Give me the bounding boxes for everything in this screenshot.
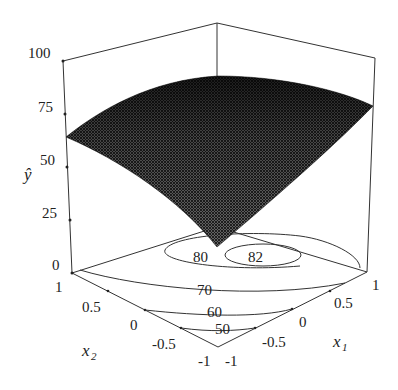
svg-text:x: x bbox=[332, 332, 341, 351]
contour-70 bbox=[80, 270, 345, 291]
top-back-left-edge bbox=[63, 23, 217, 61]
svg-text:1: 1 bbox=[342, 341, 348, 353]
x2-tick-0.5: 0.5 bbox=[82, 299, 101, 315]
x1-axis-title: x 1 bbox=[332, 332, 348, 353]
contour-label-60: 60 bbox=[207, 304, 222, 320]
x2-tick-labels: 1 0.5 0 -0.5 -1 bbox=[55, 279, 211, 369]
surface-plot-3d: 100 75 50 25 0 ŷ 1 0.5 0 -0.5 -1 x 2 -1 … bbox=[0, 0, 398, 390]
z-tick-100: 100 bbox=[28, 45, 51, 61]
x1-tick-m1: -1 bbox=[225, 353, 238, 369]
contour-label-50: 50 bbox=[215, 321, 230, 337]
x2-tick-m0.5: -0.5 bbox=[152, 336, 176, 352]
svg-text:2: 2 bbox=[91, 350, 97, 362]
x2-tick-m1: -1 bbox=[198, 353, 211, 369]
right-vertical-edge bbox=[367, 58, 375, 272]
x1-tick-0: 0 bbox=[299, 314, 307, 330]
contour-label-82: 82 bbox=[248, 249, 263, 265]
contour-82 bbox=[225, 244, 301, 266]
z-tick-50: 50 bbox=[40, 152, 55, 168]
z-axis-title: ŷ bbox=[22, 165, 32, 184]
x2-axis-title: x 2 bbox=[81, 341, 97, 362]
plot-canvas: 100 75 50 25 0 ŷ 1 0.5 0 -0.5 -1 x 2 -1 … bbox=[0, 0, 398, 390]
response-surface bbox=[66, 76, 373, 247]
contour-labels: 80 82 70 60 50 bbox=[193, 249, 263, 337]
x1-tick-0.5: 0.5 bbox=[334, 295, 353, 311]
z-tick-75: 75 bbox=[38, 99, 53, 115]
x1-tick-m0.5: -0.5 bbox=[262, 334, 286, 350]
contour-label-80: 80 bbox=[193, 249, 208, 265]
z-tick-labels: 100 75 50 25 0 bbox=[28, 45, 60, 273]
z-tick-25: 25 bbox=[42, 205, 57, 221]
x1-tick-1: 1 bbox=[372, 277, 380, 293]
svg-text:x: x bbox=[81, 341, 90, 360]
z-tick-0: 0 bbox=[52, 257, 60, 273]
x2-tick-0: 0 bbox=[130, 317, 138, 333]
z-axis-ticks bbox=[62, 60, 74, 275]
x2-tick-1: 1 bbox=[55, 279, 63, 295]
top-back-right-edge bbox=[217, 23, 375, 58]
contour-label-70: 70 bbox=[197, 282, 212, 298]
